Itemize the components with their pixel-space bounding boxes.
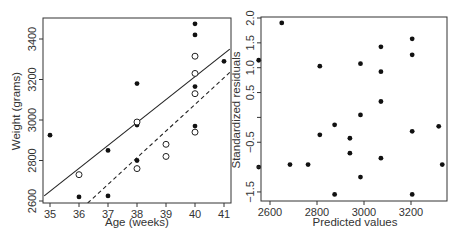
open-point [163,141,169,147]
right-scatter-panel: 2600280030003200 −1.5−0.50.51.01.52.0 Pr… [230,10,447,228]
dashed-fit-line [88,72,230,203]
open-point [192,91,198,97]
figure: 35363738394041 26002800300032003400 Age … [0,0,464,241]
residual-point [379,69,384,74]
x-tick-label: 3200 [399,206,423,218]
filled-point [193,33,198,38]
residual-point [348,136,353,141]
residual-point [279,21,284,26]
filled-point [222,59,227,64]
filled-point [193,84,198,89]
y-tick-label: 1.0 [244,60,256,75]
filled-point [193,124,198,129]
residual-point [358,113,363,118]
residual-point [379,99,384,104]
right-y-axis: −1.5−0.50.51.01.52.0 [244,10,261,202]
y-tick-label: 2600 [26,189,38,213]
residual-point [256,58,261,63]
open-point [192,70,198,76]
x-tick-label: 36 [73,208,85,220]
residual-point [410,129,415,134]
residual-point [332,192,337,197]
open-point [192,53,198,59]
right-y-axis-label: Standardized residuals [230,51,242,168]
residual-point [288,162,293,167]
x-tick-label: 40 [189,208,201,220]
x-tick-label: 2600 [258,206,282,218]
y-tick-label: −0.5 [244,131,256,153]
y-tick-label: 3400 [26,27,38,51]
y-tick-label: 2.0 [244,10,256,25]
residual-point [317,64,322,69]
open-point [163,153,169,159]
filled-point [48,133,53,138]
residual-point [358,175,363,180]
x-tick-label: 41 [218,208,230,220]
y-tick-label: 2800 [26,148,38,172]
y-tick-label: 0.5 [244,85,256,100]
residual-point [358,61,363,66]
y-tick-label: 3200 [26,67,38,91]
filled-point [106,148,111,153]
y-tick-label: 1.5 [244,35,256,50]
left-y-axis-label: Weight (grams) [10,72,22,151]
residual-point [410,52,415,57]
left-x-axis-label: Age (weeks) [105,216,169,228]
residual-point [440,162,445,167]
residual-point [332,122,337,127]
filled-point [77,195,82,200]
y-tick-label: −1.5 [244,181,256,203]
open-point [192,129,198,135]
residual-point [436,124,441,129]
left-y-axis: 26002800300032003400 [26,27,43,213]
residual-point [379,156,384,161]
filled-point [135,81,140,86]
left-scatter-panel: 35363738394041 26002800300032003400 Age … [10,18,231,228]
residual-point [410,36,415,41]
filled-point [193,21,198,26]
residual-point [306,162,311,167]
right-x-axis-label: Predicted values [312,216,397,228]
residual-point [379,44,384,49]
open-point [134,166,140,172]
right-plot-frame [261,17,447,201]
open-point [134,119,140,125]
filled-point [106,194,111,199]
residual-point [348,151,353,156]
residual-point [410,192,415,197]
x-tick-label: 35 [44,208,56,220]
open-point [76,172,82,178]
residual-point [317,132,322,137]
y-tick-label: 3000 [26,108,38,132]
filled-point [135,158,140,163]
